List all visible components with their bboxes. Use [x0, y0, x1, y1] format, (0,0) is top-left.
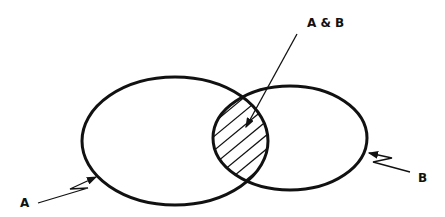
venn-diagram: A & B A B: [0, 0, 445, 217]
intersection-label: A & B: [307, 16, 344, 30]
set-a-ellipse: [82, 77, 268, 205]
intersection-pointer-arrow: [246, 34, 297, 127]
set-a-pointer-arrow: [38, 177, 96, 203]
set-a-label: A: [20, 196, 30, 210]
set-b-label: B: [418, 171, 427, 185]
set-b-ellipse: [213, 86, 367, 190]
set-b-pointer-arrow: [369, 153, 410, 172]
